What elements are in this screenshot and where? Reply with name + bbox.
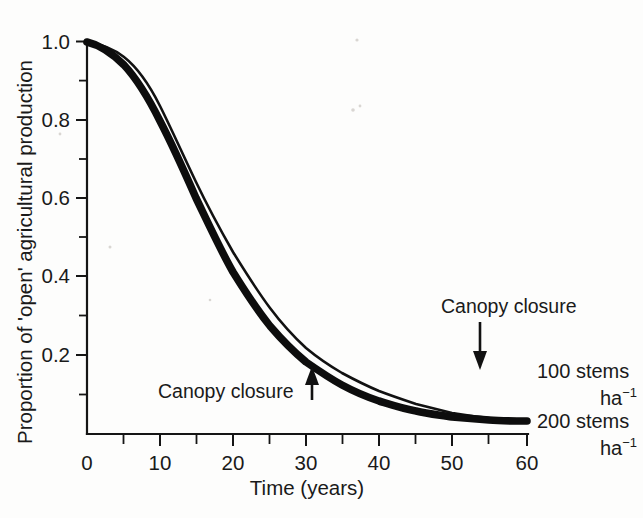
y-tick-label-2: 0.8 [42,108,71,131]
canopy-closure-label-upper: Canopy closure [441,295,577,317]
y-tick-label-3: 0.6 [42,186,71,209]
series-100-ha-text: ha [600,387,623,409]
figure-root: Proportion of 'open' agricultural produc… [0,0,643,518]
axis-lines [87,41,528,434]
x-tick-label-60: 60 [516,451,539,474]
series-label-200-stems-units: ha−1 [600,435,637,459]
series-label-100-stems: 100 stems [537,360,629,382]
y-tick-label-4: 0.4 [42,264,71,287]
series-label-100-stems-units: ha−1 [600,385,637,409]
x-tick-label-40: 40 [368,451,391,474]
x-tick-label-20: 20 [222,451,245,474]
scan-artifacts [59,38,362,301]
x-axis-title: Time (years) [250,476,364,499]
x-axis-ticks [124,434,528,446]
y-axis-ticks [76,42,87,395]
y-tick-label-5: 0.2 [42,343,71,366]
series-200-ha-exponent: −1 [622,435,637,450]
x-tick-label-10: 10 [149,451,172,474]
series-label-200-stems: 200 stems [537,410,629,432]
canopy-closure-label-lower: Canopy closure [158,380,294,402]
y-axis-title: Proportion of 'open' agricultural produc… [13,60,36,444]
x-tick-label-30: 30 [295,451,318,474]
series-100-ha-exponent: −1 [622,385,637,400]
x-tick-label-0: 0 [81,451,92,474]
curve-200-stems [87,42,527,421]
series-200-ha-text: ha [600,437,623,459]
y-tick-label-1: 1.0 [42,30,71,53]
canopy-closure-arrow-upper [473,322,487,370]
chart-canvas: Proportion of 'open' agricultural produc… [0,0,643,518]
x-tick-label-50: 50 [441,451,464,474]
